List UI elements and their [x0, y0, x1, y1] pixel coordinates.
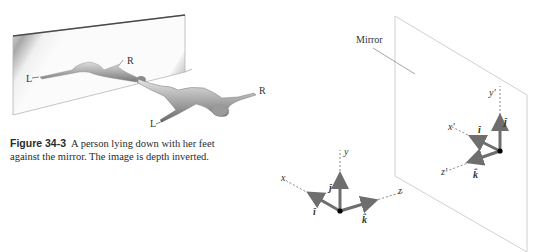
figure-caption: Figure 34-3 A person lying down with her…	[10, 137, 215, 163]
label-mirror-right-hand: R	[127, 55, 134, 66]
svg-text:z: z	[397, 185, 402, 196]
svg-text:ĵ: ĵ	[327, 182, 333, 193]
mirror-plane	[395, 16, 527, 252]
caption-label: Figure 34-3	[10, 137, 66, 149]
coordinate-reflection-diagram: Mirror y x z ĵ î k̂ y′	[270, 0, 538, 252]
label-person-left-hand: L	[150, 118, 156, 129]
object-coordinate-system: y x z ĵ î k̂	[280, 146, 403, 225]
mirror-leader-line	[373, 48, 415, 74]
person	[138, 79, 256, 122]
label-mirror-left-hand: L	[26, 73, 32, 84]
person-mirror-illustration: L R R L	[0, 0, 280, 130]
svg-text:k̂: k̂	[473, 168, 478, 180]
svg-text:y: y	[343, 146, 349, 157]
svg-text:x′: x′	[447, 121, 455, 132]
mirror-label: Mirror	[356, 34, 383, 45]
svg-text:î: î	[478, 124, 482, 135]
svg-text:y′: y′	[488, 87, 496, 98]
label-person-right-hand: R	[259, 85, 266, 96]
figure-person-mirror: L R R L	[0, 0, 280, 130]
svg-text:ĵ: ĵ	[502, 116, 508, 127]
svg-text:k̂: k̂	[362, 213, 367, 225]
mirror-panel	[13, 15, 185, 115]
svg-text:z′: z′	[440, 166, 448, 177]
svg-text:x: x	[280, 172, 286, 183]
figure-coordinate-reflection: Mirror y x z ĵ î k̂ y′	[270, 0, 538, 252]
image-coordinate-system: y′ x′ z′ ĵ î k̂	[440, 86, 508, 180]
svg-text:î: î	[313, 206, 317, 217]
